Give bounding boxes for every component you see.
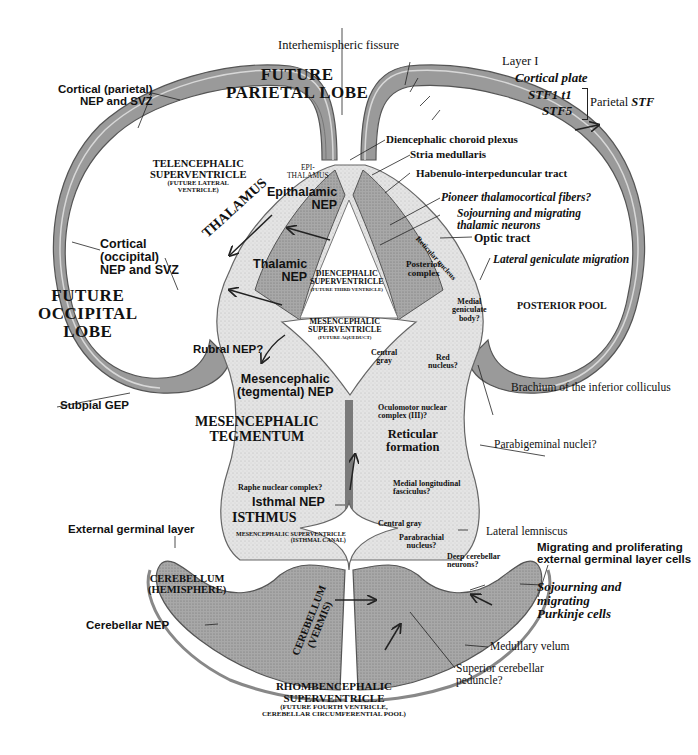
region-line: OCCIPITAL [38,305,138,323]
label-line: (tegmental) NEP [237,386,334,399]
label-habenulo-interpeduncular-tract: Habenulo-interpeduncular tract [416,168,567,180]
label-mesencephalic-nep: Mesencephalic (tegmental) NEP [237,373,334,399]
label-superior-cerebellar-peduncle: Superior cerebellar peduncle? [456,662,544,686]
label-text: Parietal [590,95,631,109]
label-posterior-complex: Posterior complex [406,260,441,279]
label-epithalamic-nep: Epithalamic NEP [267,186,337,212]
label-line: fasciculus? [393,488,460,496]
label-parabrachial-nucleus: Parabrachial nucleus? [399,534,444,551]
region-future-occipital-lobe: FUTURE OCCIPITAL LOBE [38,287,138,341]
label-deep-cerebellar-neurons: Deep cerebellar neurons? [447,553,500,570]
region-mesencephalic-tegmentum: MESENCEPHALIC TEGMENTUM [195,415,319,444]
region-line: (FUTURE THIRD VENTRICLE) [310,287,384,292]
label-parabigeminal-nuclei: Parabigeminal nuclei? [494,438,597,450]
label-line: Superior cerebellar [456,662,544,674]
label-line: Cortical (parietal) [58,83,153,95]
label-medial-longitudinal-fasciculus: Medial longitudinal fasciculus? [393,480,460,497]
label-line: nucleus? [399,542,444,550]
label-line: complex [406,269,441,278]
label-medial-geniculate-body: Medial geniculate body? [452,298,487,323]
label-line: Purkinje cells [537,607,621,621]
label-cortical-parietal-nep: Cortical (parietal) NEP and SVZ [58,83,153,107]
stf-bracket [582,88,588,120]
label-migrating-egl-cells: Migrating and proliferating external ger… [537,541,691,565]
label-oculomotor-nuclear-complex: Oculomotor nuclear complex (III)? [378,404,447,421]
region-line: LOBE [38,323,138,341]
label-isthmal-nep: Isthmal NEP [252,496,325,509]
label-line: thalamic neurons [457,219,581,231]
label-cortical-plate: Cortical plate [515,71,588,85]
region-line: RHOMBENCEPHALIC [262,681,406,693]
label-sojourning-thalamic-neurons: Sojourning and migrating thalamic neuron… [457,207,581,231]
label-line: NEP [267,199,337,212]
label-diencephalic-choroid-plexus: Diencephalic choroid plexus [386,134,518,146]
region-cerebellum-hemisphere: CEREBELLUM (HEMISPHERE) [148,573,226,595]
label-raphe-nuclear-complex: Raphe nuclear complex? [238,484,322,492]
region-line: CEREBELLUM [148,573,226,584]
label-line: neurons? [447,561,500,569]
label-line: NEP and SVZ [58,95,153,107]
label-line: body? [452,315,487,323]
label-line: external germinal layer cells [537,553,691,565]
region-line: FUTURE [38,287,138,305]
region-line: TEGMENTUM [195,430,319,445]
label-line: NEP and SVZ [100,264,179,277]
label-line: NEP [253,271,307,284]
label-interhemispheric-fissure: Interhemispheric fissure [278,39,399,52]
anatomy-illustration [0,0,698,755]
label-central-gray-upper: Central gray [371,349,397,366]
region-isthmus: ISTHMUS [232,511,297,526]
label-line: Sojourning and [537,580,621,594]
region-line: (ISTHMAL CANAL) [236,537,346,543]
label-reticular-formation: Reticular formation [386,428,439,454]
region-line: VENTRICLE) [150,187,246,194]
label-brachium-inferior-colliculus: Brachium of the inferior colliculus [511,381,671,393]
region-future-parietal-lobe: FUTURE PARIETAL LOBE [226,66,368,102]
label-optic-tract: Optic tract [474,232,530,245]
label-text-italic: STF [631,95,654,109]
label-lateral-geniculate-migration: Lateral geniculate migration [493,253,629,265]
label-line: migrating [537,594,621,608]
label-line: formation [386,441,439,454]
region-line: MESENCEPHALIC [195,415,319,430]
region-line: TELENCEPHALIC [150,158,246,169]
label-line: Sojourning and migrating [457,207,581,219]
label-medullary-velum: Medullary velum [490,640,570,652]
region-epithalamus: EPI- THALAMUS [287,164,329,180]
region-line: (FUTURE AQUEDUCT) [308,335,382,340]
region-diencephalic-superventricle: DIENCEPHALIC SUPERVENTRICLE (FUTURE THIR… [310,270,384,292]
label-thalamic-nep: Thalamic NEP [253,258,307,284]
label-line: gray [371,357,397,365]
region-line: PARIETAL LOBE [226,84,368,102]
label-rubral-nep: Rubral NEP? [193,343,263,355]
label-red-nucleus: Red nucleus? [428,354,458,371]
label-cerebellar-nep: Cerebellar NEP [86,619,169,631]
label-subpial-gep: Subpial GEP [60,399,129,411]
label-line: Migrating and proliferating [537,541,691,553]
label-stf1-t1: STF1 t1 [528,88,572,102]
label-parietal-stf: Parietal STF [590,96,654,109]
region-telencephalic-superventricle: TELENCEPHALIC SUPERVENTRICLE (FUTURE LAT… [150,158,246,194]
label-layer-i: Layer I [502,55,538,68]
region-line: SUPERVENTRICLE [308,326,382,334]
label-stria-medullaris: Stria medullaris [410,149,486,161]
region-line: THALAMUS [287,172,329,180]
label-stf5: STF5 [542,104,572,118]
label-line: complex (III)? [378,412,447,420]
region-line: FUTURE [226,66,368,84]
region-rhombencephalic-superventricle: RHOMBENCEPHALIC SUPERVENTRICLE (FUTURE F… [262,681,406,719]
region-line: SUPERVENTRICLE [310,278,384,286]
brain-section-diagram: FUTURE PARIETAL LOBE TELENCEPHALIC SUPER… [0,0,698,755]
region-isthmal-canal: MESENCEPHALIC SUPERVENTRICLE (ISTHMAL CA… [236,531,346,544]
region-line: (HEMISPHERE) [148,584,226,595]
label-pioneer-thalamocortical-fibers: Pioneer thalamocortical fibers? [441,191,591,203]
label-central-gray-lower: Central gray [378,520,422,528]
label-cortical-occipital-nep: Cortical (occipital) NEP and SVZ [100,238,179,277]
region-posterior-pool: POSTERIOR POOL [517,301,607,312]
label-sojourning-purkinje-cells: Sojourning and migrating Purkinje cells [537,580,621,621]
region-mesencephalic-superventricle: MESENCEPHALIC SUPERVENTRICLE (FUTURE AQU… [308,318,382,340]
label-external-germinal-layer: External germinal layer [68,523,195,535]
label-lateral-lemniscus: Lateral lemniscus [486,525,567,537]
label-line: peduncle? [456,674,544,686]
region-line: CEREBELLAR CIRCUMFERENTIAL POOL) [262,711,406,718]
